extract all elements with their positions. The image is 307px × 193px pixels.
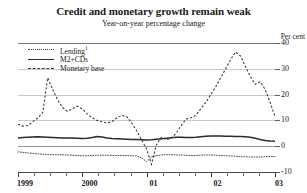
legend-swatch-m2cds-solid-line-icon xyxy=(28,55,54,64)
y-tick-label-10: 10 xyxy=(281,116,289,124)
x-tick-1999q2 xyxy=(34,172,35,176)
x-axis-label-2000: 2000 xyxy=(82,179,98,188)
legend-swatch-monetary-base-dashed-line-icon xyxy=(28,64,54,73)
y-tick-mark-40 xyxy=(275,43,280,44)
x-tick-2002 xyxy=(211,172,212,177)
legend-item-lending: Lending1 xyxy=(28,45,104,54)
x-tick-2001q3 xyxy=(179,172,180,176)
legend-label-monetary-base: Monetary base xyxy=(60,64,104,73)
y-tick-label-minus10: -10 xyxy=(281,168,292,176)
x-tick-2003 xyxy=(275,172,276,177)
y-tick-label-0: 0 xyxy=(281,142,285,150)
legend-swatch-lending-dotted-line-icon xyxy=(28,45,54,54)
y-tick-mark-20 xyxy=(275,95,280,96)
x-tick-2001q2 xyxy=(163,172,164,176)
chart-container: Credit and monetary growth remain weak Y… xyxy=(0,0,307,193)
legend-label-m2cds: M2+CDs xyxy=(60,55,88,64)
y-tick-label-40: 40 xyxy=(281,39,289,47)
series-line-m2cds xyxy=(18,136,275,141)
x-axis-label-1999: 1999 xyxy=(17,179,33,188)
chart-title: Credit and monetary growth remain weak xyxy=(0,5,307,17)
x-axis-label-03: 03 xyxy=(275,179,283,188)
x-tick-2002q3 xyxy=(243,172,244,176)
x-tick-2002q4 xyxy=(259,172,260,176)
x-tick-1999q3 xyxy=(50,172,51,176)
y-tick-mark-30 xyxy=(275,69,280,70)
x-axis-label-02: 02 xyxy=(214,179,222,188)
x-tick-2002q2 xyxy=(227,172,228,176)
series-line-lending xyxy=(18,152,275,162)
x-tick-2000 xyxy=(82,172,83,177)
x-tick-1999 xyxy=(18,172,19,177)
legend-item-monetary-base: Monetary base xyxy=(28,64,104,73)
x-tick-2000q2 xyxy=(98,172,99,176)
x-axis-label-01: 01 xyxy=(150,179,158,188)
x-tick-2000q4 xyxy=(131,172,132,176)
chart-subtitle: Year-on-year percentage change xyxy=(0,19,307,29)
x-tick-2001 xyxy=(147,172,148,177)
x-tick-1999q4 xyxy=(66,172,67,176)
y-tick-mark-0 xyxy=(275,146,280,147)
legend-item-m2cds: M2+CDs xyxy=(28,55,104,64)
x-tick-2000q3 xyxy=(114,172,115,176)
y-tick-label-20: 20 xyxy=(281,91,289,99)
x-tick-2001q4 xyxy=(195,172,196,176)
y-tick-mark-10 xyxy=(275,120,280,121)
chart-legend: Lending1 M2+CDs Monetary base xyxy=(28,45,104,74)
y-tick-label-30: 30 xyxy=(281,65,289,73)
legend-footnote-marker-lending: 1 xyxy=(85,45,88,51)
